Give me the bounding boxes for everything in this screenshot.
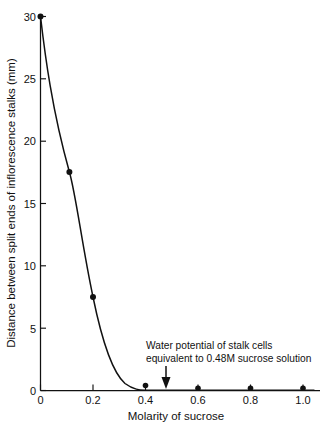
y-tick-label-10: 10 — [24, 260, 36, 272]
x-tick-label-10: 1.0 — [295, 394, 310, 406]
water-potential-annotation: Water potential of stalk cells equivalen… — [146, 340, 311, 389]
y-axis: 0 5 10 15 20 25 30 — [24, 11, 46, 397]
chart-figure: 0 5 10 15 20 25 30 0 0.2 0.4 — [0, 0, 332, 433]
y-tick-label-15: 15 — [24, 198, 36, 210]
x-axis: 0 0.2 0.4 0.6 0.8 1.0 — [37, 385, 320, 407]
y-tick-label-20: 20 — [24, 135, 36, 147]
x-tick-label-04: 0.4 — [138, 394, 153, 406]
data-points — [38, 14, 306, 392]
arrow-head — [162, 377, 171, 389]
x-axis-title: Molarity of sucrose — [128, 410, 225, 422]
data-point-0 — [38, 14, 44, 20]
data-point-6 — [300, 385, 306, 391]
annotation-line-1: Water potential of stalk cells — [146, 340, 272, 351]
data-curve-split-distance — [41, 17, 315, 391]
x-tick-label-08: 0.8 — [243, 394, 258, 406]
x-axis-tick-labels: 0 0.2 0.4 0.6 0.8 1.0 — [37, 394, 310, 406]
x-tick-label-02: 0.2 — [85, 394, 100, 406]
y-axis-ticks — [41, 17, 47, 391]
data-point-1 — [66, 169, 72, 175]
data-point-3 — [143, 383, 149, 389]
annotation-line-2: equivalent to 0.48M sucrose solution — [146, 353, 311, 364]
data-point-2 — [90, 294, 96, 300]
x-tick-label-0: 0 — [37, 394, 43, 406]
y-axis-title: Distance between split ends of infloresc… — [5, 58, 17, 348]
y-tick-label-25: 25 — [24, 73, 36, 85]
y-tick-label-30: 30 — [24, 11, 36, 23]
y-tick-label-5: 5 — [30, 323, 36, 335]
data-point-4 — [195, 385, 201, 391]
y-tick-label-0: 0 — [30, 385, 36, 397]
down-arrow-icon — [162, 366, 171, 389]
y-axis-tick-labels: 0 5 10 15 20 25 30 — [24, 11, 36, 397]
data-point-5 — [248, 385, 254, 391]
plot-canvas: 0 5 10 15 20 25 30 0 0.2 0.4 — [0, 0, 332, 433]
x-tick-label-06: 0.6 — [190, 394, 205, 406]
